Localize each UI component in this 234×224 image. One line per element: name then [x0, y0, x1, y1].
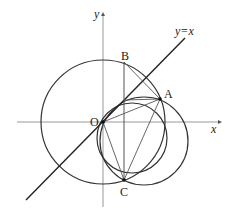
segment-OC — [103, 122, 124, 180]
point-label-O: O — [90, 115, 99, 129]
y-axis-arrow-icon — [101, 12, 105, 16]
x-axis-arrow-icon — [218, 120, 222, 124]
x-axis-label: x — [210, 122, 217, 136]
line-label: y=x — [174, 24, 194, 38]
point-label-C: C — [120, 185, 128, 199]
geometry-diagram: y x y=x B A O C — [0, 0, 234, 224]
point-A — [158, 97, 162, 101]
segment-BA — [124, 62, 160, 99]
point-label-A: A — [164, 87, 173, 101]
point-C — [122, 178, 126, 182]
diagram-svg: y x y=x B A O C — [0, 0, 234, 224]
point-O — [101, 120, 105, 124]
point-label-B: B — [121, 49, 129, 63]
y-axis-label: y — [93, 7, 100, 21]
